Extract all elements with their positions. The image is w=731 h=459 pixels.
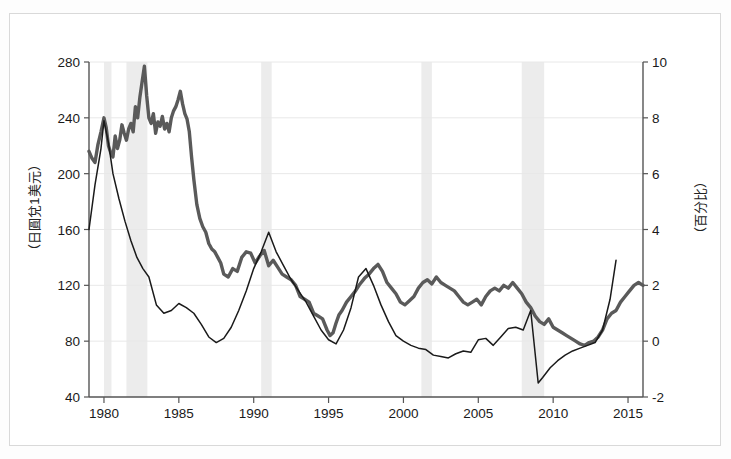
y-tick-label-left: 120 — [57, 278, 80, 293]
plot-area: 1980198519901995200020052010201540801201… — [0, 0, 731, 459]
y-tick-label-left: 200 — [57, 167, 80, 182]
tick-marks — [84, 62, 648, 403]
x-tick-label: 1980 — [89, 406, 119, 421]
x-tick-label: 2000 — [388, 406, 418, 421]
x-tick-label: 1995 — [314, 406, 344, 421]
y-tick-label-right: 8 — [652, 111, 660, 126]
x-tick-label: 1985 — [164, 406, 194, 421]
y-tick-label-left: 80 — [65, 334, 80, 349]
y-tick-label-right: -2 — [652, 390, 664, 405]
x-tick-label: 2010 — [538, 406, 568, 421]
y-tick-label-right: 4 — [652, 223, 660, 238]
y-tick-label-left: 240 — [57, 111, 80, 126]
y-tick-label-right: 6 — [652, 167, 660, 182]
y-tick-label-left: 160 — [57, 223, 80, 238]
y-tick-label-left: 280 — [57, 55, 80, 70]
y-tick-label-right: 10 — [652, 55, 667, 70]
gridlines — [89, 62, 643, 341]
y-tick-label-left: 40 — [65, 390, 80, 405]
chart-figure: （日圓兌1美元） （百分比） 1980198519901995200020052… — [0, 0, 731, 459]
x-tick-label: 2005 — [463, 406, 493, 421]
x-tick-label: 2015 — [613, 406, 643, 421]
y-tick-label-right: 2 — [652, 278, 660, 293]
x-tick-label: 1990 — [239, 406, 269, 421]
series-line — [89, 66, 643, 345]
y-tick-label-right: 0 — [652, 334, 660, 349]
data-series — [89, 66, 643, 383]
